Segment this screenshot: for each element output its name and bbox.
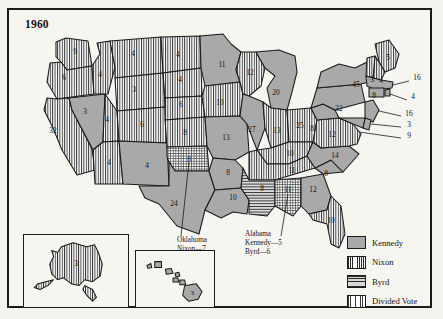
vote-label-FL: 10 xyxy=(327,216,335,225)
vote-label-IN: 13 xyxy=(273,126,281,135)
legend-swatch-nixon xyxy=(347,256,366,269)
vote-label-AR: 8 xyxy=(226,168,230,177)
vote-label-IL: 27 xyxy=(248,125,256,134)
state-RI[interactable] xyxy=(385,89,390,96)
vote-label-TX: 24 xyxy=(170,199,178,208)
vote-label-ID: 4 xyxy=(98,70,102,79)
vote-label-WI: 12 xyxy=(246,68,254,77)
alaska-vote-label: 3 xyxy=(74,260,78,268)
vote-label-KY: 10 xyxy=(286,149,294,158)
state-AK[interactable] xyxy=(34,243,102,301)
state-NE[interactable] xyxy=(165,96,205,120)
callout-alabama-line-1: Kennedy—5 xyxy=(245,239,282,247)
legend-swatch-kennedy xyxy=(347,236,366,249)
vote-label-OH: 25 xyxy=(296,121,304,130)
vote-label-NM: 4 xyxy=(145,161,149,170)
vote-label-UT: 4 xyxy=(105,115,109,124)
vote-label-MT: 4 xyxy=(131,49,135,58)
vote-label-MO: 13 xyxy=(222,133,230,142)
vote-label-VT: 3 xyxy=(370,75,374,84)
state-SD[interactable] xyxy=(163,68,202,98)
vote-label-MA: 16 xyxy=(413,73,421,82)
hawaii-vote-label: 3 xyxy=(191,289,195,297)
page-title: 1960 xyxy=(25,18,49,30)
callout-alabama-line-2: Byrd—6 xyxy=(245,248,271,256)
vote-label-TN: 11 xyxy=(288,166,295,175)
vote-label-WV: 8 xyxy=(310,124,314,133)
legend: Kennedy Nixon Byrd Divided Vote xyxy=(347,236,437,314)
legend-item-divided[interactable]: Divided Vote xyxy=(347,295,437,308)
leader-line-de xyxy=(371,124,401,127)
legend-label-kennedy: Kennedy xyxy=(372,238,403,248)
inset-alaska[interactable]: 3 xyxy=(23,234,129,308)
vote-label-NJ: 16 xyxy=(405,109,413,118)
map-frame: 9632344346444468824111013810122720132510… xyxy=(7,8,432,308)
vote-label-MD: 9 xyxy=(407,131,411,140)
vote-label-NH: 4 xyxy=(379,76,383,85)
vote-label-NY: 45 xyxy=(352,80,360,89)
inset-hawaii[interactable]: 3 xyxy=(135,250,215,308)
alaska-map-svg: 3 xyxy=(24,235,128,307)
vote-label-SC: 8 xyxy=(324,169,328,178)
legend-item-kennedy[interactable]: Kennedy xyxy=(347,236,437,249)
callout-alabama: Alabama Kennedy—5 Byrd—6 xyxy=(245,230,282,256)
state-MT[interactable] xyxy=(110,37,163,78)
leader-line-nj xyxy=(379,111,401,116)
hawaii-map-svg: 3 xyxy=(136,251,214,307)
vote-label-RI: 4 xyxy=(411,92,415,101)
leader-line-ma xyxy=(393,81,409,85)
vote-label-PA: 32 xyxy=(335,104,343,113)
vote-label-AL: 11 xyxy=(284,185,291,194)
state-GA[interactable] xyxy=(301,174,331,214)
vote-label-KS: 8 xyxy=(183,128,187,137)
vote-label-LA: 10 xyxy=(229,193,237,202)
legend-label-byrd: Byrd xyxy=(372,277,389,287)
legend-item-byrd[interactable]: Byrd xyxy=(347,275,437,288)
leader-line-md xyxy=(359,132,401,138)
vote-label-VA: 12 xyxy=(328,130,336,139)
vote-label-DE: 3 xyxy=(407,120,411,129)
vote-label-ME: 5 xyxy=(386,53,390,62)
vote-label-CA: 32 xyxy=(49,126,57,135)
vote-label-OK: 8 xyxy=(187,155,191,164)
vote-label-MI: 20 xyxy=(272,88,280,97)
vote-label-CO: 6 xyxy=(140,120,144,129)
state-ND[interactable] xyxy=(161,36,201,73)
vote-label-AZ: 4 xyxy=(107,158,111,167)
legend-item-nixon[interactable]: Nixon xyxy=(347,256,437,269)
callout-oklahoma-line-0: Oklahoma xyxy=(177,236,208,244)
legend-swatch-byrd xyxy=(347,275,366,288)
vote-label-NC: 14 xyxy=(331,151,339,160)
legend-label-divided: Divided Vote xyxy=(372,296,417,306)
vote-label-ND: 4 xyxy=(176,50,180,59)
vote-label-WA: 9 xyxy=(73,47,77,56)
state-WY[interactable] xyxy=(115,73,165,111)
vote-label-CT: 8 xyxy=(372,91,376,100)
state-NM[interactable] xyxy=(119,141,169,186)
vote-label-MS: 8 xyxy=(260,184,264,193)
vote-label-MN: 11 xyxy=(218,60,225,69)
vote-label-SD: 4 xyxy=(178,75,182,84)
vote-label-GA: 12 xyxy=(309,185,317,194)
vote-label-WY: 3 xyxy=(132,85,136,94)
leader-line-ri xyxy=(390,94,407,100)
legend-swatch-divided xyxy=(347,295,366,308)
election-map-figure: 9632344346444468824111013810122720132510… xyxy=(0,0,443,319)
vote-label-NV: 3 xyxy=(83,107,87,116)
vote-label-IA: 10 xyxy=(216,98,224,107)
callout-alabama-line-0: Alabama xyxy=(245,230,272,238)
legend-label-nixon: Nixon xyxy=(372,257,393,267)
vote-label-NE: 6 xyxy=(179,100,183,109)
state-AL[interactable] xyxy=(275,178,301,216)
vote-label-OR: 6 xyxy=(62,73,66,82)
